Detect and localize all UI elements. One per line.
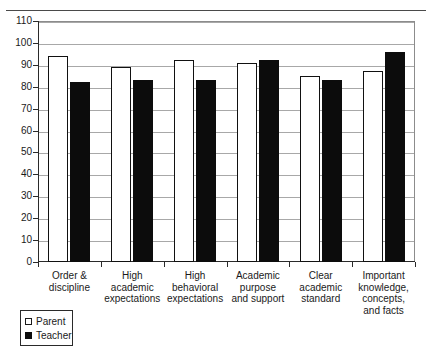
x-axis-label-0: Order &discipline [36,270,103,293]
bar-teacher-1 [133,80,153,262]
legend-swatch-teacher-icon [25,332,32,339]
bar-teacher-4 [322,80,342,262]
y-tick-label-30: 30 [6,191,32,201]
bar-teacher-2 [196,80,216,262]
x-tick-mark-0 [38,262,39,267]
y-tick-label-0: 0 [6,257,32,267]
x-axis-label-line: concepts, [350,293,417,305]
bar-parent-2 [174,60,194,262]
x-axis-label-line: knowledge, [350,282,417,294]
chart-legend: Parent Teacher [20,310,73,346]
x-axis-label-line: behavioral [162,282,229,294]
x-axis-label-line: Order & [36,270,103,282]
bar-parent-3 [237,63,257,262]
bar-teacher-3 [259,60,279,262]
bar-teacher-0 [70,82,90,262]
x-axis-label-line: High [99,270,166,282]
x-tick-mark-4 [289,262,290,267]
x-tick-mark-end [415,262,416,267]
y-tick-label-10: 10 [6,235,32,245]
x-axis-label-line: academic [287,282,354,294]
bar-parent-0 [48,56,68,262]
bar-parent-5 [363,71,383,262]
x-axis-label-line: purpose [225,282,292,294]
x-axis-label-line: expectations [162,293,229,305]
y-tick-label-110: 110 [6,16,32,26]
x-axis-label-line: standard [287,293,354,305]
x-axis-label-1: Highacademicexpectations [99,270,166,305]
x-axis-label-line: discipline [36,282,103,294]
x-tick-mark-5 [352,262,353,267]
x-axis-label-line: academic [99,282,166,294]
x-tick-mark-2 [164,262,165,267]
bar-teacher-5 [385,52,405,262]
bars-layer [38,21,415,262]
x-axis-label-line: and support [225,293,292,305]
x-axis-label-line: Academic [225,270,292,282]
y-tick-label-90: 90 [6,60,32,70]
x-axis-label-line: High [162,270,229,282]
x-axis-label-line: Important [350,270,417,282]
legend-item-parent: Parent [25,314,72,328]
x-tick-mark-3 [227,262,228,267]
legend-label-parent: Parent [36,316,65,327]
y-tick-label-20: 20 [6,213,32,223]
legend-label-teacher: Teacher [36,330,72,341]
y-tick-label-50: 50 [6,147,32,157]
caption-divider [6,10,426,11]
bar-parent-4 [300,76,320,262]
y-tick-label-70: 70 [6,104,32,114]
bar-parent-1 [111,67,131,262]
y-tick-label-100: 100 [6,38,32,48]
x-axis-label-line: and facts [350,305,417,317]
x-tick-mark-1 [101,262,102,267]
y-tick-label-80: 80 [6,82,32,92]
legend-swatch-parent-icon [25,318,32,325]
x-axis-label-3: Academicpurposeand support [225,270,292,305]
x-axis-label-4: Clearacademicstandard [287,270,354,305]
x-axis-label-line: Clear [287,270,354,282]
y-tick-label-40: 40 [6,169,32,179]
x-axis-label-5: Importantknowledge,concepts,and facts [350,270,417,316]
legend-item-teacher: Teacher [25,328,72,342]
x-axis-label-2: Highbehavioralexpectations [162,270,229,305]
y-tick-label-60: 60 [6,126,32,136]
x-axis-label-line: expectations [99,293,166,305]
